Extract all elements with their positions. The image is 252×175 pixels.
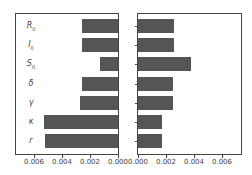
- y-tick-mark: [135, 45, 138, 46]
- y-tick-mark: [135, 64, 138, 65]
- y-label-0: R0: [24, 21, 38, 32]
- x-tick-label: 0.002: [80, 158, 100, 166]
- right-bar-6: [138, 134, 162, 148]
- right-bar-0: [138, 19, 174, 33]
- x-tick-label: 0.000: [128, 158, 148, 166]
- x-tick-label: 0.002: [156, 158, 176, 166]
- y-tick-mark: [135, 141, 138, 142]
- x-tick-label: 0.004: [184, 158, 204, 166]
- x-tick-label: 0.006: [24, 158, 44, 166]
- right-bar-3: [138, 77, 173, 91]
- y-tick-mark: [135, 84, 138, 85]
- y-label-5: κ: [24, 117, 38, 126]
- x-tick-label: 0.000: [108, 158, 128, 166]
- x-tick-label: 0.006: [212, 158, 232, 166]
- y-label-1: I0: [24, 40, 38, 51]
- left-bar-5: [44, 115, 118, 129]
- left-bar-1: [82, 38, 118, 52]
- y-label-6: r: [24, 136, 38, 145]
- left-bar-6: [45, 134, 118, 148]
- y-label-4: γ: [24, 98, 38, 107]
- right-bar-4: [138, 96, 173, 110]
- right-bar-1: [138, 38, 174, 52]
- x-tick-label: 0.004: [52, 158, 72, 166]
- y-tick-mark: [135, 26, 138, 27]
- left-bar-4: [80, 96, 118, 110]
- y-tick-mark: [135, 103, 138, 104]
- y-tick-mark: [135, 122, 138, 123]
- y-label-3: δ: [24, 79, 38, 88]
- left-bar-0: [82, 19, 118, 33]
- right-bar-2: [138, 57, 191, 71]
- y-label-2: S0: [24, 59, 38, 70]
- left-bar-3: [82, 77, 118, 91]
- left-bar-2: [100, 57, 118, 71]
- right-bar-5: [138, 115, 162, 129]
